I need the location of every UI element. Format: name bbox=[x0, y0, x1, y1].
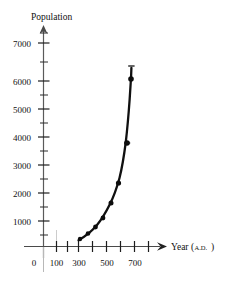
data-point-550 bbox=[116, 180, 121, 185]
data-point-300 bbox=[78, 237, 82, 241]
population-curve bbox=[79, 68, 132, 240]
y-tick-label-4000: 4000 bbox=[13, 133, 32, 143]
y-tick-label-6000: 6000 bbox=[13, 77, 32, 87]
data-point-650 bbox=[128, 76, 134, 82]
y-tick-label-7000: 7000 bbox=[13, 39, 32, 49]
data-point-markers bbox=[78, 76, 134, 241]
data-point-430 bbox=[101, 216, 106, 221]
x-tick-label-500: 500 bbox=[100, 258, 114, 268]
y-tick-label-1000: 1000 bbox=[13, 217, 32, 227]
x-tick-label-0: 0 bbox=[32, 258, 37, 268]
data-point-350 bbox=[86, 231, 91, 236]
x-axis-label-main: Year ( bbox=[171, 242, 194, 253]
x-axis-label-group: Year ( A.D. ) bbox=[171, 242, 214, 253]
data-point-500 bbox=[109, 201, 114, 206]
population-growth-chart: Population Year ( A.D. ) bbox=[0, 0, 227, 286]
y-tick-label-3000: 3000 bbox=[13, 161, 32, 171]
data-point-390 bbox=[93, 225, 98, 230]
x-axis bbox=[24, 242, 167, 251]
x-axis-label-close: ) bbox=[211, 242, 214, 253]
y-axis-label: Population bbox=[31, 12, 72, 22]
x-axis-label-smallcaps: A.D. bbox=[195, 244, 208, 251]
x-tick-label-300: 300 bbox=[72, 258, 86, 268]
y-tick-label-5000: 5000 bbox=[13, 105, 32, 115]
x-tick-label-700: 700 bbox=[128, 258, 142, 268]
y-tick-label-2000: 2000 bbox=[13, 189, 32, 199]
x-axis-tick-labels: 0 100 300 500 700 bbox=[32, 258, 143, 268]
chart-canvas: Population Year ( A.D. ) bbox=[0, 0, 227, 286]
y-axis-tick-labels: 1000 2000 3000 4000 5000 6000 7000 bbox=[13, 39, 32, 227]
x-tick-label-100: 100 bbox=[50, 258, 64, 268]
y-axis bbox=[40, 25, 48, 258]
